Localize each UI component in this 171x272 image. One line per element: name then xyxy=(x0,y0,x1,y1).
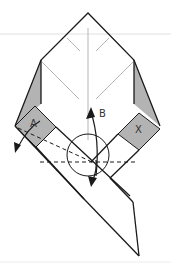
origami-diagram: A B X xyxy=(0,0,171,272)
label-b: B xyxy=(99,108,106,119)
rotation-circle xyxy=(67,134,109,176)
arrow-down-head xyxy=(88,176,97,187)
label-x: X xyxy=(135,124,142,135)
label-a: A xyxy=(30,118,37,129)
arrow-b-head xyxy=(86,107,95,119)
